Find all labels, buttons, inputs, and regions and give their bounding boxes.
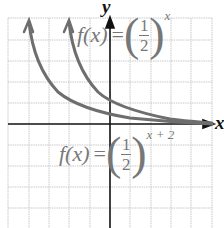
right-paren: ) xyxy=(131,128,146,179)
equation-label-top: f(x) =(12)x xyxy=(77,12,170,58)
fraction: 12 xyxy=(121,136,131,173)
x-axis-label: x xyxy=(215,112,224,134)
left-paren: ( xyxy=(124,9,139,60)
equals-sign: = xyxy=(94,141,106,166)
equation-label-bottom: f(x) =(12)x + 2 xyxy=(59,131,174,177)
function-name: f(x) xyxy=(59,141,90,166)
fraction: 12 xyxy=(139,17,149,54)
exponent: x xyxy=(165,8,171,23)
exponent: x + 2 xyxy=(147,127,175,142)
numerator: 1 xyxy=(140,17,149,34)
right-paren: ) xyxy=(149,9,164,60)
numerator: 1 xyxy=(122,136,131,153)
denominator: 2 xyxy=(140,37,149,54)
equals-sign: = xyxy=(112,22,124,47)
function-name: f(x) xyxy=(77,22,108,47)
left-paren: ( xyxy=(106,128,121,179)
denominator: 2 xyxy=(122,156,131,173)
